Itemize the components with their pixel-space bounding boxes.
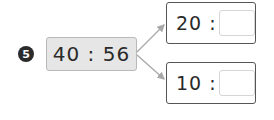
- problem-number-badge: 5: [18, 46, 34, 62]
- arrow-to-top-icon: [137, 25, 164, 52]
- answer-box-bottom: 10 :: [166, 62, 256, 104]
- answer-label-top: 20 :: [176, 12, 218, 34]
- answer-input-bottom[interactable]: [219, 70, 255, 96]
- answer-box-top: 20 :: [166, 2, 256, 44]
- answer-label-bottom: 10 :: [176, 72, 218, 94]
- given-ratio-box: 40 : 56: [46, 37, 137, 71]
- answer-input-top[interactable]: [219, 10, 255, 36]
- arrow-to-bottom-icon: [137, 55, 164, 79]
